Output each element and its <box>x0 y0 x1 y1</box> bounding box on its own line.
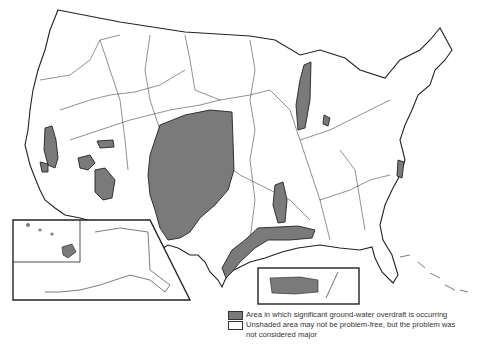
arizona-overdraft-1 <box>78 155 95 170</box>
high-plains-overdraft <box>148 110 234 240</box>
legend-label: Area in which significant ground-water o… <box>246 310 447 320</box>
florida-keys-and-bahamas <box>400 255 468 292</box>
socal-overdraft <box>40 162 48 172</box>
shaded-swatch-icon <box>228 311 243 320</box>
puerto-rico-island <box>270 277 318 294</box>
nevada-overdraft <box>97 140 114 148</box>
legend-item-unshaded: Unshaded area may not be problem-free, b… <box>228 320 455 340</box>
nc-coast-overdraft <box>397 160 404 178</box>
map-legend: Area in which significant ground-water o… <box>228 310 455 340</box>
mississippi-overdraft <box>273 182 287 223</box>
unshaded-swatch-icon <box>228 321 243 330</box>
michigan-overdraft <box>296 62 311 130</box>
puerto-rico-inset <box>258 268 359 304</box>
legend-item-shaded: Area in which significant ground-water o… <box>228 310 455 320</box>
arizona-overdraft-2 <box>95 168 115 200</box>
legend-label: Unshaded area may not be problem-free, b… <box>246 320 455 340</box>
central-valley-overdraft <box>44 126 58 168</box>
ohio-overdraft <box>323 115 330 126</box>
us-groundwater-map <box>0 0 478 350</box>
